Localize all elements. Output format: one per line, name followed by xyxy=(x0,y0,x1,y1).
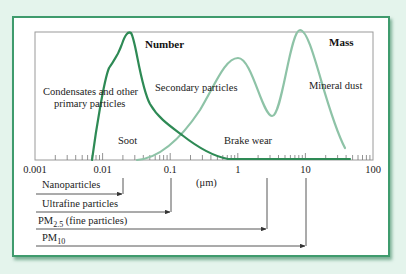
number-label: Number xyxy=(145,38,184,50)
nanoparticles-label: Nanoparticles xyxy=(42,179,100,190)
ultrafine-label: Ultrafine particles xyxy=(42,198,118,209)
pm25-suffix: (fine particles) xyxy=(63,215,128,227)
x-axis-unit-label: (μm) xyxy=(196,177,217,189)
pm25-main: PM xyxy=(38,215,54,226)
brake-wear-label: Brake wear xyxy=(224,135,273,146)
x-tick-0.1: 0.1 xyxy=(164,164,177,175)
mass-label: Mass xyxy=(329,36,354,48)
particle-size-distribution-chart: Number Mass Condensates and other primar… xyxy=(0,0,406,274)
x-tick-10: 10 xyxy=(300,164,311,175)
x-tick-0.001: 0.001 xyxy=(23,164,47,175)
condensates-label-line2: primary particles xyxy=(54,98,125,109)
pm10-label: PM10 xyxy=(42,232,65,246)
x-tick-1: 1 xyxy=(235,164,240,175)
x-tick-0.01: 0.01 xyxy=(93,164,111,175)
pm10-main: PM xyxy=(42,232,58,243)
secondary-particles-label: Secondary particles xyxy=(155,82,238,93)
x-tick-100: 100 xyxy=(365,164,381,175)
soot-label: Soot xyxy=(118,135,137,146)
pm10-subscript: 10 xyxy=(57,237,65,246)
mineral-dust-label: Mineral dust xyxy=(309,80,362,91)
condensates-label-line1: Condensates and other xyxy=(43,86,139,97)
pm25-label: PM2.5 (fine particles) xyxy=(38,215,128,229)
pm25-subscript: 2.5 xyxy=(53,220,63,229)
